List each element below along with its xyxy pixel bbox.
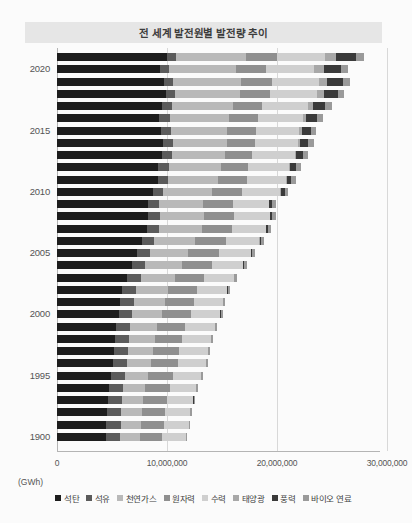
bar-segment [300,139,308,147]
bar-segment [324,65,341,73]
bar-segment [148,372,174,380]
bar-segment [212,188,242,196]
legend-item[interactable]: 원자력 [164,492,196,504]
bar-segment [129,335,155,343]
bar-segment [227,139,255,147]
bar-segment [221,310,223,318]
bar-segment [123,384,145,392]
bar-segment [261,237,264,245]
bar-segment [164,421,189,429]
bar-row [57,237,264,245]
bar-segment [153,188,164,196]
bar-segment [160,212,205,220]
legend-label: 천연가스 [126,492,157,504]
bar-segment [246,53,277,61]
bar-row [57,90,344,98]
bar-segment [194,298,223,306]
x-axis-tick-label: 30,000,000 [347,458,412,468]
bar-segment [195,237,226,245]
bar-segment [114,347,128,355]
bar-row [57,212,276,220]
bar-segment [143,396,167,404]
bar-segment [161,127,171,135]
bar-row [57,274,237,282]
bar-segment [57,65,160,73]
bar-segment [122,286,135,294]
bar-segment [219,249,251,257]
bar-segment [141,421,164,429]
legend-item[interactable]: 풍력 [272,492,296,504]
bar-segment [57,310,119,318]
bar-segment [121,408,141,416]
bar-segment [248,163,289,171]
legend-item[interactable]: 석유 [86,492,110,504]
y-axis-tick-label: 1995 [10,370,50,381]
legend-item[interactable]: 태양광 [233,492,265,504]
y-axis-tick-label: 2020 [10,63,50,74]
bar-segment [325,53,336,61]
bar-segment [172,102,233,110]
bar-segment [57,102,162,110]
bar-segment [57,261,132,269]
bar-segment [155,335,182,343]
bar-segment [306,114,317,122]
bar-segment [173,78,241,86]
bar-segment [308,139,313,147]
bar-segment [218,176,247,184]
bar-segment [317,114,323,122]
legend-item[interactable]: 석탄 [55,492,79,504]
y-axis-tick-label: 2015 [10,125,50,136]
bar-row [57,188,288,196]
bar-row [57,102,332,110]
bar-segment [115,335,129,343]
bar-segment [223,298,225,306]
bar-segment [356,53,363,61]
bar-row [57,323,217,331]
bar-segment [314,65,323,73]
bar-segment [171,127,227,135]
bar-segment [215,323,217,331]
bar-segment [186,433,187,441]
bar-segment [57,274,127,282]
bar-segment [268,225,271,233]
bar-segment [145,261,181,269]
legend-item[interactable]: 수력 [202,492,226,504]
bar-row [57,310,223,318]
bar-segment [160,65,168,73]
legend-item[interactable]: 바이오 연료 [303,492,352,504]
bar-segment [244,261,247,269]
legend-swatch-icon [117,495,123,501]
bar-segment [176,53,246,61]
bar-segment [247,176,286,184]
bar-segment [159,200,204,208]
legend-swatch-icon [164,495,170,501]
bar-segment [262,102,308,110]
legend-label: 석유 [95,492,110,504]
bar-segment [194,396,196,404]
bar-segment [168,286,197,294]
bar-segment [190,408,192,416]
bar-segment [221,163,248,171]
legend-swatch-icon [233,495,239,501]
bar-row [57,53,364,61]
bar-segment [285,188,289,196]
bar-segment [327,78,343,86]
bar-segment [212,261,243,269]
bar-segment [120,298,134,306]
bar-segment [203,200,233,208]
bar-segment [296,151,303,159]
bar-segment [127,359,151,367]
bar-segment [162,151,173,159]
bar-segment [116,323,130,331]
legend-label: 석탄 [64,492,79,504]
bar-segment [158,176,168,184]
bar-segment [336,53,356,61]
legend-item[interactable]: 천연가스 [117,492,156,504]
bar-segment [57,163,158,171]
bar-row [57,286,230,294]
bar-segment [159,114,169,122]
bar-segment [108,396,122,404]
bar-segment [57,127,161,135]
legend-label: 수력 [211,492,226,504]
bar-row [57,372,203,380]
